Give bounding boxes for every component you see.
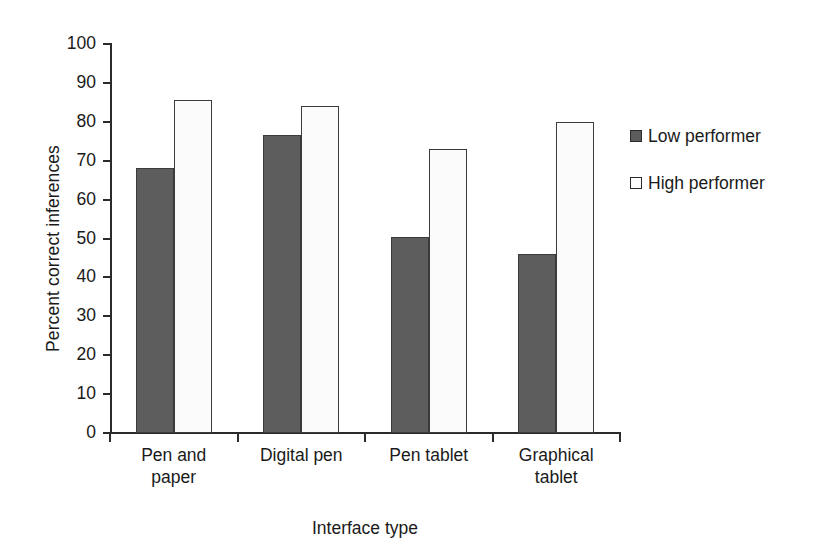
bar-low-performer-pen-and-paper [136, 168, 174, 433]
bar-high-performer-digital-pen [301, 106, 339, 433]
legend-swatch-low-performer-icon [630, 130, 642, 142]
x-axis-tick [364, 433, 366, 442]
x-axis-category-label-line: paper [94, 466, 254, 488]
y-axis-tick-label: 80 [50, 113, 96, 131]
legend-swatch-high-performer-icon [630, 177, 642, 189]
y-axis-tick-label: 40 [50, 268, 96, 286]
x-axis-tick [237, 433, 239, 442]
legend-item-high-performer: High performer [630, 171, 820, 195]
bar-low-performer-graphical-tablet [518, 254, 556, 433]
x-axis-tick [492, 433, 494, 442]
bar-high-performer-pen-and-paper [174, 100, 212, 433]
y-axis-tick-label: 50 [50, 230, 96, 248]
y-axis-tick-label: 70 [50, 152, 96, 170]
bar-low-performer-digital-pen [263, 135, 301, 433]
chart-legend: Low performer High performer [630, 124, 820, 218]
bar-high-performer-graphical-tablet [556, 122, 594, 433]
x-axis-category-label-line: Graphical [476, 444, 636, 466]
y-axis-tick-label: 10 [50, 385, 96, 403]
bar-low-performer-pen-tablet [391, 237, 429, 433]
x-axis-title: Interface type [110, 518, 620, 539]
bar-high-performer-pen-tablet [429, 149, 467, 433]
legend-item-low-performer: Low performer [630, 124, 820, 148]
y-axis-tick-labels: 1009080706050403020100 [50, 0, 96, 556]
y-axis-tick-label: 60 [50, 191, 96, 209]
y-axis-tick-label: 100 [50, 35, 96, 53]
y-axis-tick-label: 30 [50, 307, 96, 325]
plot-area [110, 44, 620, 433]
x-axis-tick [109, 433, 111, 442]
y-axis-tick-label: 90 [50, 74, 96, 92]
x-axis-tick [619, 433, 621, 442]
x-axis-category-label: Graphicaltablet [476, 444, 636, 489]
legend-label-low-performer: Low performer [648, 126, 761, 147]
y-axis-tick-label: 0 [50, 424, 96, 442]
x-axis-category-label-line: tablet [476, 466, 636, 488]
bar-chart-figure: Percent correct inferences 1009080706050… [0, 0, 825, 556]
legend-label-high-performer: High performer [648, 173, 765, 194]
y-axis-tick-label: 20 [50, 346, 96, 364]
